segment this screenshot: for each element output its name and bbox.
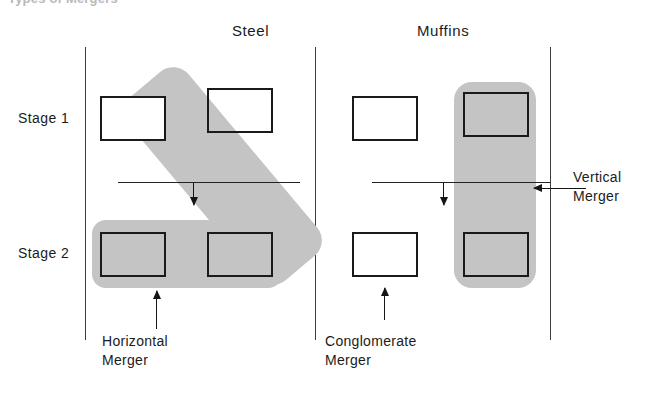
firm-box-steel-stage1-left bbox=[100, 96, 166, 141]
firm-box-muffins-stage1-right bbox=[463, 92, 529, 137]
firm-box-steel-stage2-left bbox=[100, 232, 166, 277]
firm-box-muffins-stage1-left bbox=[352, 96, 418, 141]
conglomerate-merger-leader-arrow bbox=[384, 288, 385, 320]
row-label-stage-2: Stage 2 bbox=[18, 245, 69, 261]
cropped-caption-text: Types of Mergers bbox=[8, 0, 118, 6]
annotation-horizontal-merger-line2: Merger bbox=[102, 352, 148, 368]
merger-types-diagram: Types of Mergers Steel Muffins Stage 1 S… bbox=[0, 0, 651, 393]
annotation-conglomerate-merger-line2: Merger bbox=[325, 352, 371, 368]
annotation-horizontal-merger: Horizontal Merger bbox=[102, 332, 168, 370]
annotation-horizontal-merger-line1: Horizontal bbox=[102, 333, 168, 349]
firm-box-muffins-stage2-left bbox=[352, 232, 418, 277]
stage-transition-rule-muffins bbox=[372, 182, 550, 183]
firm-box-muffins-stage2-right bbox=[463, 232, 529, 277]
divider-right bbox=[550, 47, 551, 340]
annotation-vertical-merger-line1: Vertical bbox=[573, 169, 621, 185]
annotation-vertical-merger: Vertical Merger bbox=[573, 168, 621, 206]
column-header-steel: Steel bbox=[232, 22, 269, 39]
firm-box-steel-stage2-right bbox=[207, 232, 273, 277]
row-label-stage-1: Stage 1 bbox=[18, 110, 69, 126]
annotation-conglomerate-merger-line1: Conglomerate bbox=[325, 333, 417, 349]
stage-transition-arrow-muffins bbox=[443, 183, 444, 205]
annotation-vertical-merger-line2: Merger bbox=[573, 188, 619, 204]
firm-box-steel-stage1-right bbox=[207, 88, 273, 133]
stage-transition-arrow-steel bbox=[193, 183, 194, 205]
divider-middle bbox=[315, 47, 316, 340]
annotation-conglomerate-merger: Conglomerate Merger bbox=[325, 332, 417, 370]
stage-transition-rule-steel bbox=[118, 182, 300, 183]
column-header-muffins: Muffins bbox=[417, 22, 469, 39]
divider-left bbox=[85, 47, 86, 340]
horizontal-merger-leader-arrow bbox=[156, 291, 157, 329]
